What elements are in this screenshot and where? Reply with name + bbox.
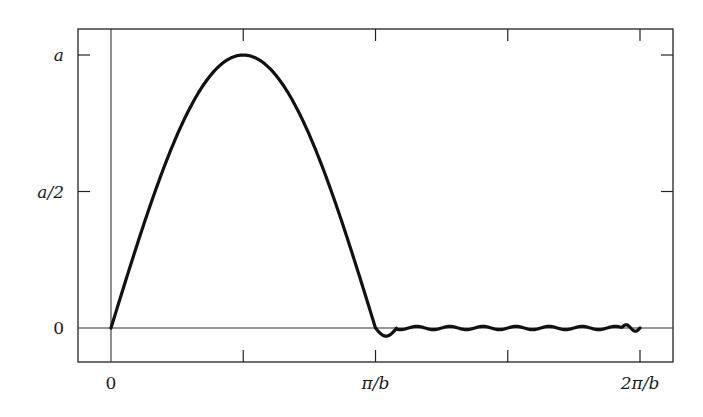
tick-labels: 0π/b2π/b0a/2a — [37, 45, 659, 393]
x-tick-label: 2π/b — [620, 373, 660, 393]
x-tick-label: 0 — [106, 373, 117, 393]
axis-ticks — [78, 29, 673, 362]
data-curve — [111, 55, 640, 336]
y-tick-label: a — [54, 45, 64, 65]
x-tick-label: π/b — [361, 373, 390, 393]
chart: 0π/b2π/b0a/2a — [0, 0, 703, 417]
plot-frame — [78, 29, 673, 362]
y-tick-label: 0 — [53, 318, 64, 338]
y-tick-label: a/2 — [37, 182, 64, 202]
zero-reference-lines — [78, 29, 673, 362]
